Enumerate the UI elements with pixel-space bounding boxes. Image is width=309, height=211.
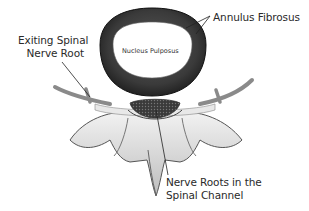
label-exiting-line2: Nerve Root — [18, 47, 84, 60]
label-nerve-roots-line2: Spinal Channel — [166, 189, 262, 202]
spine-diagram — [0, 0, 309, 211]
label-annulus-fibrosus: Annulus Fibrosus — [213, 11, 300, 24]
label-nucleus-pulposus: Nucleus Pulposus — [122, 47, 179, 55]
spinal-canal — [128, 99, 182, 119]
label-nerve-roots-spinal-channel: Nerve Roots in the Spinal Channel — [166, 176, 262, 202]
label-nerve-roots-line1: Nerve Roots in the — [166, 176, 262, 189]
label-exiting-line1: Exiting Spinal — [18, 34, 84, 47]
label-exiting-spinal-nerve-root: Exiting Spinal Nerve Root — [18, 34, 84, 60]
